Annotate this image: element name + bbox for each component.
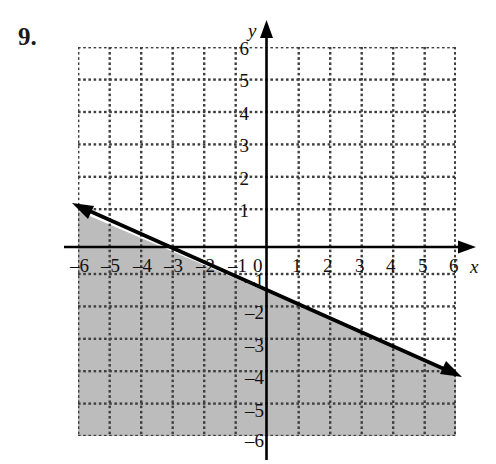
x-tick--2: –2 [195, 255, 215, 276]
x-tick-3: 3 [355, 255, 365, 276]
y-axis-label: y [246, 20, 257, 41]
y-tick--5: –5 [244, 400, 264, 421]
x-tick-4: 4 [386, 255, 396, 276]
y-tick--3: –3 [244, 335, 264, 356]
x-tick--6: –6 [69, 255, 89, 276]
x-tick-6: 6 [449, 255, 459, 276]
x-axis-label: x [469, 256, 479, 277]
x-tick-1: 1 [292, 255, 302, 276]
y-tick-5: 5 [240, 70, 250, 91]
y-tick--6: –6 [244, 430, 264, 451]
y-tick-3: 3 [240, 135, 250, 156]
y-tick--4: –4 [244, 367, 265, 388]
y-tick-2: 2 [240, 168, 250, 189]
x-tick-2: 2 [323, 255, 333, 276]
y-tick-4: 4 [240, 103, 250, 124]
y-tick--2: –2 [244, 302, 264, 323]
y-tick--1: –1 [244, 270, 264, 291]
figure-canvas: 9. [0, 0, 496, 464]
x-tick--4: –4 [132, 255, 153, 276]
x-tick--5: –5 [100, 255, 120, 276]
x-tick--1: –1 [227, 255, 247, 276]
x-tick-5: 5 [418, 255, 428, 276]
y-tick-6: 6 [240, 38, 250, 59]
y-tick-1: 1 [240, 200, 250, 221]
x-tick--3: –3 [163, 255, 183, 276]
coordinate-plane-graph: –6 –5 –4 –3 –2 –1 0 1 2 3 4 5 6 6 5 4 3 … [0, 0, 496, 464]
